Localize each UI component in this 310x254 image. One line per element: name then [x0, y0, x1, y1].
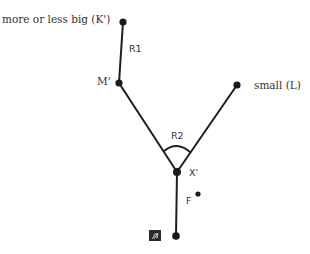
label-k-prime: more or less big (K') [2, 14, 110, 25]
label-r1: R1 [129, 44, 142, 54]
node-x-prime [173, 168, 181, 176]
label-x-prime: X' [189, 168, 198, 178]
edge-l-to-x [177, 85, 237, 172]
edge-r1 [119, 22, 123, 83]
label-m-prime: M' [97, 76, 111, 87]
edge-x-to-bottom [176, 172, 177, 236]
hatched-square-icon: //i [149, 230, 161, 241]
node-k-prime [119, 18, 126, 25]
label-l: small (L) [254, 80, 301, 91]
label-r2: R2 [171, 131, 184, 141]
node-m-prime [115, 79, 122, 86]
node-l [233, 81, 240, 88]
node-f [195, 191, 200, 196]
node-bottom [172, 232, 180, 240]
angle-arc-r2 [164, 146, 191, 153]
edge-m-to-x [119, 83, 177, 172]
diagram-svg [0, 0, 310, 254]
label-f: F [186, 196, 191, 206]
